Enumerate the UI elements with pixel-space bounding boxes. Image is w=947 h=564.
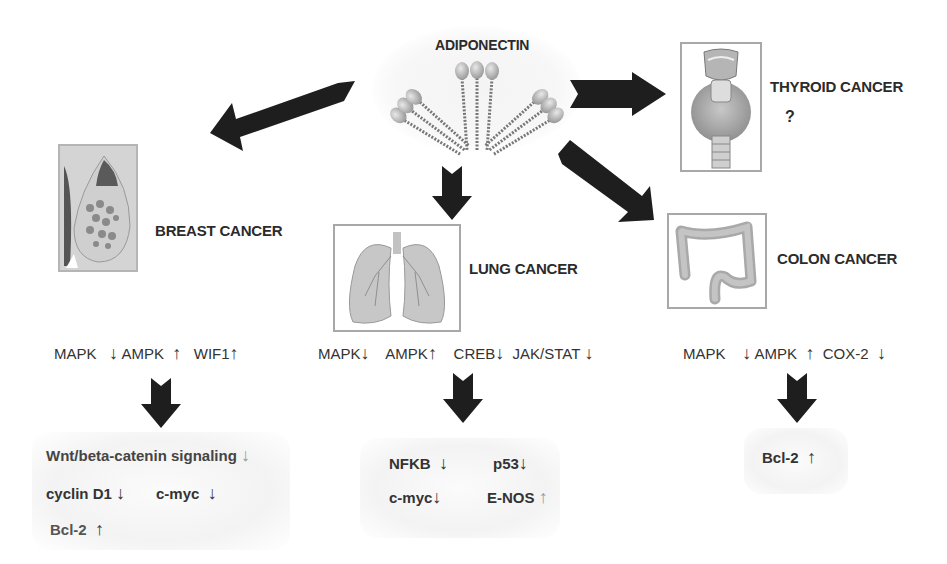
breast-outcome-cyclin-d1: cyclin D1 ↓ <box>46 484 125 502</box>
colon-image-card <box>667 213 767 309</box>
thyroid-label: THYROID CANCER <box>770 78 903 95</box>
down-arrow-icon: ↓ <box>432 488 441 506</box>
breast-image-card <box>58 144 138 272</box>
breast-signals: MAPK ↓ AMPK ↑ WIF1↑ <box>54 344 239 362</box>
arrow-to-thyroid-icon <box>570 72 670 116</box>
lung-outcome-c-myc: c-myc↓ <box>389 488 441 506</box>
lung-label: LUNG CANCER <box>469 260 578 277</box>
colon-outcomes-box: Bcl-2 ↑ <box>744 428 848 494</box>
thyroid-icon <box>682 44 760 170</box>
colon-label: COLON CANCER <box>777 250 897 267</box>
colon-pathway-arrow-icon <box>777 373 817 423</box>
arrow-to-breast-icon <box>210 75 360 155</box>
lung-signal-ampk: AMPK↑ <box>385 345 437 362</box>
breast-signal-wif1: WIF1↑ <box>194 345 239 362</box>
down-arrow-icon: ↓ <box>109 344 118 362</box>
up-arrow-icon: ↑ <box>807 448 816 466</box>
arrow-to-lung-icon <box>432 166 472 220</box>
colon-signals: MAPK ↓ AMPK ↑ COX-2 ↓ <box>683 344 886 362</box>
down-arrow-icon: ↓ <box>877 344 886 362</box>
up-arrow-icon: ↑ <box>172 344 181 362</box>
down-arrow-icon: ↓ <box>208 484 217 502</box>
thyroid-unknown-mark: ? <box>785 108 795 126</box>
down-arrow-icon: ↓ <box>439 454 448 472</box>
up-arrow-icon: ↑ <box>230 344 239 362</box>
thyroid-image-card <box>680 42 762 172</box>
down-arrow-icon: ↓ <box>495 344 504 362</box>
lung-outcomes-box: NFKB ↓ p53↓ c-myc↓ E-NOS ↑ <box>360 438 560 538</box>
lung-signal-jakstat: JAK/STAT ↓ <box>513 345 594 362</box>
lungs-icon <box>335 226 459 330</box>
breast-pathway-arrow-icon <box>141 378 181 428</box>
arrow-to-colon-icon <box>558 140 668 230</box>
colon-signal-mapk: MAPK ↓ <box>683 345 751 362</box>
colon-icon <box>669 215 765 307</box>
up-arrow-icon: ↑ <box>95 520 104 538</box>
up-arrow-icon: ↑ <box>805 344 814 362</box>
breast-outcome-bcl2: Bcl-2 ↑ <box>50 520 104 538</box>
lung-signal-mapk: MAPK↓ <box>318 345 370 362</box>
adiponectin-label: ADIPONECTIN <box>435 37 529 53</box>
down-arrow-icon: ↓ <box>241 446 250 464</box>
lung-signal-creb: CREB↓ <box>454 345 505 362</box>
breast-outcome-wnt: Wnt/beta-catenin signaling ↓ <box>46 446 250 464</box>
lung-outcome-nfkb: NFKB ↓ <box>389 454 448 472</box>
breast-outcome-c-myc: c-myc ↓ <box>156 484 217 502</box>
adiponectin-node: ADIPONECTIN <box>372 18 582 148</box>
up-arrow-icon: ↑ <box>428 344 437 362</box>
lung-outcome-p53: p53↓ <box>493 454 528 472</box>
lung-image-card <box>333 224 461 332</box>
breast-outcomes-box: Wnt/beta-catenin signaling ↓ cyclin D1 ↓… <box>32 432 290 550</box>
lung-signals: MAPK↓ AMPK↑ CREB↓ JAK/STAT ↓ <box>318 344 594 362</box>
colon-signal-cox2: COX-2 ↓ <box>823 345 886 362</box>
down-arrow-icon: ↓ <box>361 344 370 362</box>
breast-tissue-icon <box>60 146 136 270</box>
lung-outcome-enos: E-NOS ↑ <box>487 488 548 506</box>
down-arrow-icon: ↓ <box>116 484 125 502</box>
colon-signal-ampk: AMPK ↑ <box>755 345 815 362</box>
lung-pathway-arrow-icon <box>443 373 483 423</box>
down-arrow-icon: ↓ <box>742 344 751 362</box>
colon-outcome-bcl2: Bcl-2 ↑ <box>762 448 816 466</box>
breast-signal-mapk: MAPK ↓ <box>54 345 118 362</box>
adiponectin-protein-icon <box>382 58 572 158</box>
down-arrow-icon: ↓ <box>585 344 594 362</box>
up-arrow-icon: ↑ <box>539 488 548 506</box>
breast-signal-ampk: AMPK ↑ <box>121 345 181 362</box>
down-arrow-icon: ↓ <box>519 454 528 472</box>
breast-label: BREAST CANCER <box>155 222 282 239</box>
